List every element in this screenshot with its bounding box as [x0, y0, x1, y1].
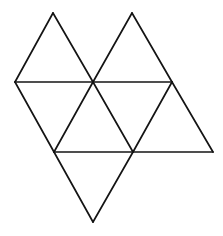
- figure-container: Octahedron net of eight equilateral tria…: [0, 0, 223, 236]
- figure-background: [0, 0, 223, 236]
- triangle-net-diagram: Octahedron net of eight equilateral tria…: [0, 0, 223, 236]
